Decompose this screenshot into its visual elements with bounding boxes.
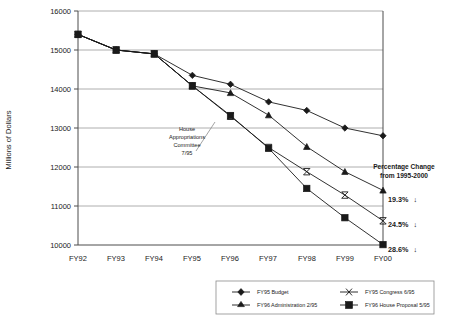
- triangle-marker-icon: [380, 187, 386, 193]
- xtick-label-fy94: FY94: [145, 254, 163, 263]
- pct-header-line2: from 1995-2000: [380, 172, 428, 179]
- diamond-marker-icon: [342, 125, 348, 131]
- diamond-marker-icon: [227, 81, 233, 87]
- legend-border: [216, 281, 434, 314]
- legend-label-3: FY96 House Proposal 5/95: [365, 302, 430, 308]
- square-marker-icon: [304, 185, 310, 191]
- ytick-label-10000: 10000: [50, 241, 71, 250]
- pct-value-1: 19.3% ↓: [388, 195, 417, 204]
- legend-label-2: FY96 Administration 2/95: [257, 302, 317, 308]
- xtick-label-fy99: FY99: [336, 254, 354, 263]
- cross-marker-icon: [304, 168, 310, 174]
- series-layer: [75, 31, 386, 248]
- series-0: [75, 31, 386, 139]
- diamond-marker-icon: [304, 107, 310, 113]
- square-marker-icon: [151, 51, 157, 57]
- cross-marker-icon: [342, 192, 348, 198]
- square-marker-icon: [75, 31, 81, 37]
- square-marker-icon: [346, 302, 353, 309]
- ytick-label-15000: 15000: [50, 46, 71, 55]
- legend-label-1: FY95 Congress 6/95: [365, 289, 414, 295]
- pct-header-line1: Percentage Change: [373, 163, 435, 171]
- y-axis-title: Millions of Dollars: [4, 110, 13, 169]
- pct-value-3-number: 28.6%: [388, 245, 409, 254]
- callout-line-3: Committee: [173, 142, 200, 148]
- pct-value-2-number: 24.5%: [388, 220, 409, 229]
- square-marker-icon: [227, 112, 233, 118]
- xtick-label-fy97: FY97: [259, 254, 277, 263]
- legend-label-0: FY95 Budget: [257, 289, 289, 295]
- xtick-label-fy98: FY98: [298, 254, 316, 263]
- callout-line-4: 7/95: [182, 150, 193, 156]
- triangle-marker-icon: [265, 112, 271, 118]
- ytick-label-11000: 11000: [51, 202, 71, 211]
- series-line-3: [78, 34, 383, 244]
- ytick-label-12000: 12000: [50, 163, 71, 172]
- xtick-label-fy93: FY93: [107, 254, 125, 263]
- square-marker-icon: [113, 47, 119, 53]
- xtick-label-fy92: FY92: [69, 254, 87, 263]
- pct-value-2: 24.5% ↓: [388, 220, 417, 229]
- chart-container: 16000 15000 14000 13000 12000 11000 1000…: [0, 0, 449, 319]
- legend-item-1[interactable]: FY95 Congress 6/95: [340, 289, 414, 296]
- line-chart: 16000 15000 14000 13000 12000 11000 1000…: [0, 0, 449, 319]
- xtick-label-fy00: FY00: [374, 254, 392, 263]
- triangle-marker-icon: [342, 168, 348, 174]
- down-arrow-icon-2: ↓: [413, 220, 417, 229]
- xtick-label-fy96: FY96: [221, 254, 239, 263]
- square-marker-icon: [189, 83, 195, 89]
- y-tick-labels: 16000 15000 14000 13000 12000 11000 1000…: [50, 7, 71, 250]
- x-tick-labels: FY92 FY93 FY94 FY95 FY96 FY97 FY98 FY99 …: [69, 254, 392, 263]
- xtick-label-fy95: FY95: [183, 254, 201, 263]
- ytick-label-14000: 14000: [50, 85, 71, 94]
- diamond-marker-icon: [380, 133, 386, 139]
- legend-item-0[interactable]: FY95 Budget: [232, 289, 289, 296]
- house-appropriations-callout: House Appropriations Committee 7/95: [169, 122, 215, 156]
- pct-value-1-number: 19.3%: [388, 195, 409, 204]
- callout-line-2: Appropriations: [169, 134, 205, 140]
- pct-value-3: 28.6% ↓: [388, 245, 417, 254]
- down-arrow-icon-1: ↓: [413, 195, 417, 204]
- y-tickmarks: [74, 11, 78, 245]
- square-marker-icon: [380, 241, 386, 247]
- square-marker-icon: [342, 215, 348, 221]
- down-arrow-icon-3: ↓: [413, 245, 417, 254]
- gridlines: [78, 11, 383, 206]
- series-3: [75, 31, 386, 248]
- square-marker-icon: [265, 145, 271, 151]
- diamond-marker-icon: [189, 72, 195, 78]
- chart-legend: FY95 Budget FY96 Administration 2/95 FY9…: [216, 281, 434, 314]
- callout-line-1: House: [179, 126, 195, 132]
- ytick-label-16000: 16000: [50, 7, 71, 16]
- ytick-label-13000: 13000: [50, 124, 71, 133]
- diamond-marker-icon: [265, 99, 271, 105]
